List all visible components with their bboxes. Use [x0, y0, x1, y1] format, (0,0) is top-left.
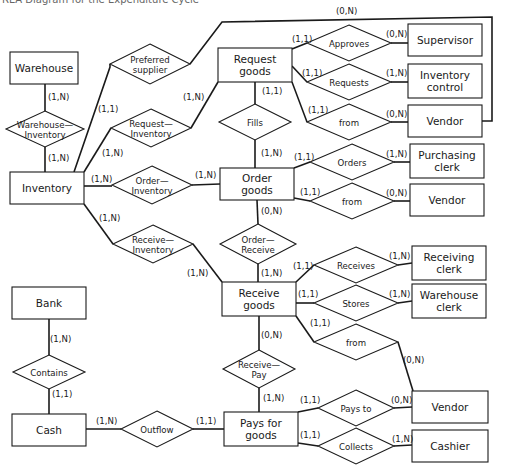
cardinality-label: (1,1): [98, 104, 118, 114]
entity-warehouse[interactable]: Warehouse: [10, 52, 78, 84]
entity-supervisor[interactable]: Supervisor: [408, 24, 482, 56]
cardinality-label: (1,N): [102, 148, 123, 158]
label-line: Orders: [338, 158, 367, 168]
relationship-orders[interactable]: Orders: [310, 144, 394, 180]
entity-purchasing-clerk[interactable]: Purchasingclerk: [410, 144, 484, 178]
label-line: goods: [243, 299, 275, 311]
label-line: clerk: [436, 301, 462, 313]
label-line: Receive: [238, 287, 279, 299]
entity-pays-for-goods[interactable]: Pays forgoods: [224, 412, 298, 446]
label-line: Vendor: [427, 115, 465, 127]
label-line: Receives: [337, 261, 376, 271]
relationship-pays-to[interactable]: Pays to: [318, 390, 394, 426]
connector-line: [294, 198, 310, 201]
cardinality-label: (1,1): [262, 86, 282, 96]
relationship-receives[interactable]: Receives: [314, 247, 398, 283]
label-line: Inventory: [22, 182, 72, 194]
label-line: Inventory: [420, 69, 470, 81]
label-line: Vendor: [432, 401, 470, 413]
relationship-contains[interactable]: Contains: [13, 355, 85, 389]
relationship-order-receive[interactable]: Order—Receive: [220, 224, 296, 264]
cardinality-label: (1,N): [99, 213, 120, 223]
relationship-order-inventory[interactable]: Order—Inventory: [112, 166, 192, 204]
relationship-from-3[interactable]: from: [314, 324, 398, 360]
cardinality-label: (1,1): [300, 187, 320, 197]
entity-vendor-2[interactable]: Vendor: [410, 184, 484, 216]
label-line: Contains: [30, 368, 68, 378]
cardinality-label: (1,1): [308, 105, 328, 115]
label-line: Requests: [329, 78, 369, 88]
label-line: goods: [245, 429, 277, 441]
connector-line: [398, 301, 412, 303]
er-diagram: WarehouseInventoryRequestgoodsSupervisor…: [0, 0, 520, 474]
relationship-from-2[interactable]: from: [310, 183, 394, 219]
entity-receiving-clerk[interactable]: Receivingclerk: [412, 246, 486, 280]
connector-line: [394, 445, 412, 446]
label-line: Outflow: [140, 425, 173, 435]
label-line: Order—: [241, 235, 274, 245]
label-line: Receiving: [424, 251, 475, 263]
label-line: Order—: [135, 176, 168, 186]
relationship-collects[interactable]: Collects: [318, 428, 394, 464]
entity-cashier[interactable]: Cashier: [412, 430, 488, 462]
connector-line: [257, 200, 258, 224]
label-line: clerk: [434, 161, 460, 173]
cardinality-label: (1,1): [293, 261, 313, 271]
entity-inventory[interactable]: Inventory: [10, 172, 84, 204]
connector-line: [298, 443, 318, 446]
label-line: Pays for: [240, 417, 282, 429]
connector-line: [398, 263, 412, 265]
cardinality-label: (0,N): [391, 395, 412, 405]
label-line: Receive—: [238, 360, 281, 370]
connector-line: [192, 184, 220, 185]
relationship-stores[interactable]: Stores: [314, 285, 398, 321]
label-line: Preferred: [130, 55, 169, 65]
label-line: Receive: [241, 245, 275, 255]
label-line: goods: [239, 65, 271, 77]
label-line: Inventory: [131, 186, 172, 196]
cardinality-label: (0,N): [386, 188, 407, 198]
label-line: from: [339, 118, 359, 128]
cardinality-label: (1,1): [300, 395, 320, 405]
label-line: Collects: [339, 442, 373, 452]
cardinality-label: (0,N): [386, 109, 407, 119]
entity-cash[interactable]: Cash: [12, 414, 86, 446]
cardinality-label: (1,1): [298, 289, 318, 299]
entity-order-goods[interactable]: Ordergoods: [220, 168, 294, 200]
label-line: from: [342, 197, 362, 207]
label-line: supplier: [133, 65, 168, 75]
cardinality-label: (1,1): [302, 68, 322, 78]
entity-vendor-3[interactable]: Vendor: [412, 391, 488, 423]
relationship-fills[interactable]: Fills: [219, 104, 291, 140]
cardinality-label: (1,N): [183, 92, 204, 102]
label-line: Warehouse—: [17, 120, 74, 130]
entity-receive-goods[interactable]: Receivegoods: [222, 282, 296, 316]
cardinality-label: (1,1): [196, 416, 216, 426]
relationship-warehouse-inventory[interactable]: Warehouse—Inventory: [6, 111, 84, 147]
entity-request-goods[interactable]: Requestgoods: [218, 48, 292, 82]
relationship-preferred-supplier[interactable]: Preferredsupplier: [110, 44, 190, 84]
cardinality-label: (0,N): [336, 6, 357, 16]
relationship-request-inventory[interactable]: Request—Inventory: [111, 109, 191, 147]
entity-bank[interactable]: Bank: [12, 287, 86, 319]
relationship-receive-pay[interactable]: Receive—Pay: [223, 350, 295, 388]
relationship-approves[interactable]: Approves: [307, 25, 391, 61]
relationship-outflow[interactable]: Outflow: [121, 411, 193, 447]
cardinality-label: (1,1): [52, 389, 72, 399]
relationship-receive-inventory[interactable]: Receive—Inventory: [113, 225, 193, 263]
label-line: from: [346, 338, 366, 348]
label-line: Approves: [329, 39, 370, 49]
label-line: Warehouse: [15, 62, 73, 74]
label-line: Request: [234, 53, 277, 65]
entity-warehouse-clerk[interactable]: Warehouseclerk: [412, 284, 486, 318]
entity-inventory-control[interactable]: Inventorycontrol: [408, 64, 482, 98]
label-line: Pays to: [341, 404, 372, 414]
cardinality-label: (1,N): [263, 393, 284, 403]
cardinality-label: (1,N): [261, 148, 282, 158]
cardinality-label: (1,N): [48, 153, 69, 163]
connector-line: [84, 204, 113, 244]
label-line: Purchasing: [418, 149, 475, 161]
entity-vendor-1[interactable]: Vendor: [408, 105, 482, 137]
cardinality-label: (1,N): [389, 289, 410, 299]
cardinality-label: (1,N): [261, 268, 282, 278]
